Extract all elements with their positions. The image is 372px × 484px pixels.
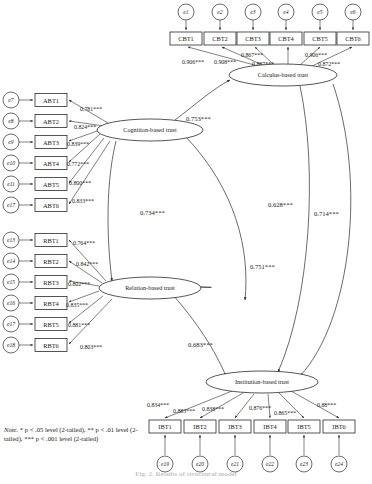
struct-label-cognition-to-relation: 0.734*** xyxy=(140,209,165,216)
loading-label-cbt1: 0.906*** xyxy=(182,59,204,65)
loading-label-rbt3: 0.802*** xyxy=(68,281,90,287)
error-label-e17: e17 xyxy=(7,321,15,327)
latent-relation-based-trust[interactable]: Relation-based trust xyxy=(99,277,201,299)
error-label-e9: e9 xyxy=(8,139,13,145)
loading-label-cbt5: 0.906*** xyxy=(305,52,327,58)
path-cognition-to-calculus xyxy=(175,80,230,120)
struct-label-calculus-to-institution-right: 0.714*** xyxy=(314,210,339,217)
indicator-label-cbt1: CBT1 xyxy=(178,35,194,42)
abt-loading-labels: 0.781*** 0.824*** 0.839*** 0.772*** 0.80… xyxy=(67,106,102,204)
error-label-e24: e24 xyxy=(335,461,343,467)
indicator-label-ibt3: IBT3 xyxy=(228,423,242,430)
indicator-label-ibt1: IBT1 xyxy=(158,423,172,430)
ibt-loading-labels: 0.834*** 0.883*** 0.838*** 0.876*** 0.86… xyxy=(147,402,336,416)
cbt-indicators: CBT1 CBT2 CBT3 CBT4 CBT5 CBT6 xyxy=(170,32,369,45)
error-label-e21: e21 xyxy=(231,461,239,467)
loading-label-abt2: 0.824*** xyxy=(74,124,96,130)
note-text: * p < .05 level (2-tailed), ** p < .01 l… xyxy=(4,426,138,442)
error-label-e15: e15 xyxy=(7,279,15,285)
significance-note: Note. * p < .05 level (2-tailed), ** p <… xyxy=(4,426,154,443)
loading-label-rbt5: 0.881*** xyxy=(68,322,90,328)
cbt-block: e1 e2 e3 e4 e5 e6 xyxy=(170,4,369,67)
loading-label-rbt1: 0.764*** xyxy=(73,240,95,246)
struct-label-relation-to-institution-lower: 0.683*** xyxy=(188,341,213,348)
indicator-label-abt3: ABT3 xyxy=(43,139,59,146)
error-label-e10: e10 xyxy=(7,160,15,166)
error-label-e13: e13 xyxy=(7,237,15,243)
rbt-indicators: RBT1 RBT2 RBT3 RBT4 RBT5 RBT6 xyxy=(35,234,67,352)
indicator-label-cbt6: CBT6 xyxy=(345,35,361,42)
rbt-errors: e13 e14 e15 e16 e17 e18 xyxy=(3,232,19,353)
struct-label-relation-to-institution: 0.751*** xyxy=(250,263,275,270)
loading-label-ibt1: 0.834*** xyxy=(147,402,169,408)
indicator-label-abt6: ABT6 xyxy=(43,202,59,209)
loading-label-ibt4: 0.876*** xyxy=(249,405,271,411)
abt-indicators: ABT1 ABT2 ABT3 ABT4 ABT5 ABT6 xyxy=(35,94,67,212)
loading-label-rbt6: 0.803*** xyxy=(80,344,102,350)
indicator-label-rbt4: RBT4 xyxy=(43,300,59,307)
error-label-e1: e1 xyxy=(183,9,188,15)
error-label-e12: e17 xyxy=(7,202,15,208)
indicator-label-ibt6: IBT6 xyxy=(332,423,346,430)
error-label-e3: e3 xyxy=(250,9,255,15)
cbt-errors: e1 e2 e3 e4 e5 e6 xyxy=(178,4,361,20)
sem-path-diagram: e1 e2 e3 e4 e5 e6 xyxy=(0,0,372,484)
loading-label-abt1: 0.781*** xyxy=(80,106,102,112)
loading-label-abt6: 0.833*** xyxy=(72,198,94,204)
cbt-error-arrows xyxy=(186,20,353,30)
struct-label-cognition-to-calculus: 0.753*** xyxy=(186,115,211,122)
latent-label-calculus: Calculus-based trust xyxy=(258,71,309,78)
indicator-label-cbt3: CBT3 xyxy=(245,35,261,42)
indicator-label-rbt6: RBT6 xyxy=(43,342,59,349)
error-label-e11: e11 xyxy=(7,181,15,187)
abt-loading-arrows xyxy=(69,100,110,204)
error-label-e23: e23 xyxy=(300,461,308,467)
loading-label-ibt3: 0.838*** xyxy=(202,406,224,412)
error-label-e20: e20 xyxy=(196,461,204,467)
latent-institution-based-trust[interactable]: Institution-based trust xyxy=(206,371,318,393)
loading-label-cbt3: 0.867*** xyxy=(241,52,263,58)
error-label-e19: e19 xyxy=(161,461,169,467)
indicator-label-abt2: ABT2 xyxy=(43,118,59,125)
latent-cognition-based-trust[interactable]: Cognition-based trust xyxy=(97,119,203,141)
figure-caption: Fig. 2. Results of structural model xyxy=(0,470,372,478)
indicator-label-abt1: ABT1 xyxy=(43,97,59,104)
rbt-error-arrows xyxy=(19,240,33,345)
path-calculus-to-institution-right xyxy=(300,84,351,376)
sem-canvas: e1 e2 e3 e4 e5 e6 xyxy=(0,0,372,484)
latent-label-cognition: Cognition-based trust xyxy=(123,126,177,133)
indicator-label-cbt4: CBT4 xyxy=(278,35,294,42)
indicator-label-rbt2: RBT2 xyxy=(43,258,59,265)
abt-block: e7 e8 e9 e10 e11 e17 xyxy=(3,92,110,213)
loading-label-cbt6: 0.872*** xyxy=(318,61,340,67)
loading-label-abt4: 0.772*** xyxy=(67,161,89,167)
loading-label-rbt2: 0.842*** xyxy=(76,261,98,267)
error-label-e14: e14 xyxy=(7,258,15,264)
error-label-e7: e7 xyxy=(8,97,13,103)
indicator-label-cbt2: CBT2 xyxy=(212,35,228,42)
error-label-e18: e18 xyxy=(7,342,15,348)
path-relation-to-institution xyxy=(186,137,246,300)
loading-label-abt3: 0.839*** xyxy=(67,141,89,147)
error-label-e6: e6 xyxy=(350,9,355,15)
indicator-label-cbt5: CBT5 xyxy=(312,35,328,42)
latent-calculus-based-trust[interactable]: Calculus-based trust xyxy=(229,64,337,86)
indicator-label-rbt5: RBT5 xyxy=(43,321,59,328)
error-label-e5: e5 xyxy=(317,9,322,15)
indicator-label-ibt5: IBT5 xyxy=(297,423,311,430)
indicator-label-rbt3: RBT3 xyxy=(43,279,59,286)
indicator-label-ibt4: IBT4 xyxy=(263,423,277,430)
loading-label-ibt2: 0.883*** xyxy=(173,408,195,414)
loading-label-ibt5: 0.865*** xyxy=(274,410,296,416)
struct-label-calculus-to-institution: 0.628*** xyxy=(268,201,293,208)
indicator-label-abt4: ABT4 xyxy=(43,160,60,167)
latent-label-institution: Institution-based trust xyxy=(235,378,289,385)
path-calculus-to-institution xyxy=(278,86,309,372)
rbt-block: e13 e14 e15 e16 e17 e18 xyxy=(3,232,112,353)
loading-label-ibt6: 0.88*** xyxy=(317,402,336,408)
error-label-e16: e16 xyxy=(7,300,15,306)
abt-errors: e7 e8 e9 e10 e11 e17 xyxy=(3,92,19,213)
indicator-label-rbt1: RBT1 xyxy=(43,237,59,244)
ibt-block: 0.834*** 0.883*** 0.838*** 0.876*** 0.86… xyxy=(147,391,355,472)
ibt-error-arrows xyxy=(165,435,339,455)
